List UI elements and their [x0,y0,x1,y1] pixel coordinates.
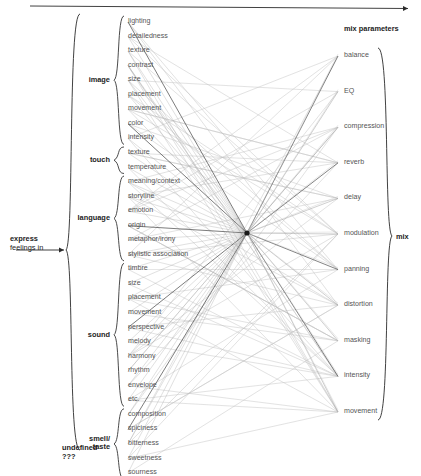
left-item-label: etc. [128,396,139,403]
left-item-label: bitterness [128,440,159,447]
left-item-label: temperature [128,164,166,171]
right-group-label: mix [396,233,409,242]
right-item-label: panning [344,266,369,273]
left-item-label: size [128,76,141,83]
right-item-label: EQ [344,88,354,95]
undefined-label-line2: ??? [62,452,76,461]
right-item-label: balance [344,52,369,59]
left-group-label: smell/taste [0,435,114,452]
right-item-label: intensity [344,372,370,379]
right-item-label: masking [344,337,370,344]
left-item-label: size [128,280,141,287]
mix-bracket [378,48,392,420]
left-item-label: metaphor/irony [128,236,175,243]
left-item-label: sourness [128,469,157,476]
left-item-label: melody [128,338,151,345]
left-item-label: placement [128,91,161,98]
group-bracket [114,176,124,261]
left-item-label: detailedness [128,33,168,40]
group-bracket [114,409,124,476]
right-section-header: mix parameters [344,24,399,33]
left-item-label: color [128,120,143,127]
left-item-label: placement [128,294,161,301]
left-item-label: timbre [128,265,148,272]
left-group-label: language [0,214,114,223]
left-item-label: texture [128,149,150,156]
left-item-label: contrast [128,62,153,69]
left-item-label: intensity [128,134,154,141]
left-item-label: movement [128,105,161,112]
source-label-line2: feelings in [10,243,43,252]
left-item-label: perspective [128,324,164,331]
right-item-label: delay [344,194,361,201]
left-item-label: rhythm [128,367,150,374]
left-item-label: stylistic association [128,251,188,258]
left-item-label: emotion [128,207,153,214]
group-bracket [114,147,124,174]
left-item-label: envelope [128,382,157,389]
group-bracket [114,16,124,144]
source-label: express feelings in [10,234,43,253]
process-direction-arrow [30,6,408,9]
left-group-label: touch [0,156,114,165]
source-label-line1: express [10,234,38,243]
right-item-label: compression [344,123,384,130]
left-item-label: movement [128,309,161,316]
left-item-label: storyline [128,193,154,200]
left-item-label: meaning/context [128,178,180,185]
right-item-label: distortion [344,301,373,308]
left-item-label: origin [128,222,145,229]
right-item-label: modulation [344,230,379,237]
left-item-label: sweetness [128,455,162,462]
right-item-label: reverb [344,159,364,166]
left-item-label: harmony [128,353,156,360]
left-item-label: texture [128,47,150,54]
left-group-label: sound [0,331,114,340]
left-item-label: spiciness [128,425,157,432]
left-group-label: image [0,76,114,85]
right-item-label: movement [344,408,377,415]
left-item-label: lighting [128,18,150,25]
left-item-label: composition [128,411,166,418]
group-bracket [114,263,124,406]
